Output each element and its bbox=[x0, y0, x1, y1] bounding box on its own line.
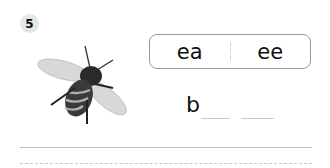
answer-blank-1[interactable] bbox=[201, 118, 230, 119]
choice-ee[interactable]: ee bbox=[231, 40, 311, 64]
choice-ea[interactable]: ea bbox=[150, 40, 230, 64]
letter-choices-box: ea ee bbox=[149, 34, 311, 69]
answer-blank-2[interactable] bbox=[241, 118, 274, 119]
writing-line-dashed bbox=[20, 163, 312, 164]
exercise-number-badge: 5 bbox=[20, 14, 39, 33]
writing-line-solid bbox=[20, 147, 312, 148]
word-start-letter: b bbox=[186, 92, 200, 117]
bee-icon bbox=[35, 40, 135, 130]
